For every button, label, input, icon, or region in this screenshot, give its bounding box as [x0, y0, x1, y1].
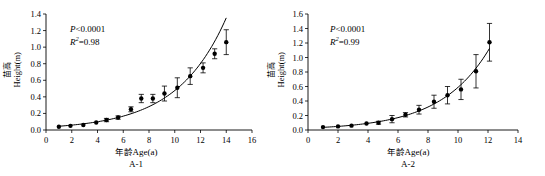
panel-a2-statistics: P<0.0001 R2=0.99	[330, 24, 365, 49]
svg-text:6: 6	[396, 135, 400, 145]
svg-text:12: 12	[196, 135, 205, 145]
panel-a1-caption: A-1	[0, 159, 272, 169]
svg-text:0.8: 0.8	[292, 67, 303, 77]
svg-text:1.0: 1.0	[30, 42, 41, 52]
svg-text:1.6: 1.6	[292, 9, 303, 19]
svg-text:14: 14	[222, 135, 231, 145]
panel-a2-pvalue: P<0.0001	[330, 24, 365, 35]
svg-text:10: 10	[171, 135, 180, 145]
svg-text:4: 4	[95, 135, 100, 145]
svg-text:0.0: 0.0	[292, 125, 303, 135]
panel-a1: 0.00.20.40.60.81.01.21.40246810121416 P<…	[0, 0, 272, 176]
svg-text:8: 8	[147, 135, 151, 145]
svg-text:0.4: 0.4	[292, 96, 303, 106]
panel-a2-rsquared: R2=0.99	[330, 35, 365, 48]
svg-text:10: 10	[454, 135, 463, 145]
svg-text:1.4: 1.4	[292, 24, 303, 34]
svg-text:1.2: 1.2	[292, 38, 303, 48]
panel-a1-rsquared: R2=0.98	[70, 35, 105, 48]
panel-a1-statistics: P<0.0001 R2=0.98	[70, 24, 105, 49]
svg-text:0: 0	[44, 135, 48, 145]
svg-text:16: 16	[248, 135, 257, 145]
svg-text:12: 12	[484, 135, 493, 145]
panel-a2-x-axis-label: 年龄Age(a)	[272, 145, 544, 157]
svg-text:2: 2	[70, 135, 74, 145]
svg-text:8: 8	[426, 135, 430, 145]
figure-container: 0.00.20.40.60.81.01.21.40246810121416 P<…	[0, 0, 545, 176]
svg-text:1.0: 1.0	[292, 53, 303, 63]
svg-text:0.8: 0.8	[30, 59, 41, 69]
svg-text:0.0: 0.0	[30, 125, 41, 135]
svg-text:0: 0	[306, 135, 310, 145]
svg-text:6: 6	[121, 135, 125, 145]
svg-text:2: 2	[336, 135, 340, 145]
svg-text:1.2: 1.2	[30, 26, 41, 36]
panel-a2-y-axis-label: 苗高 Height(m)	[267, 39, 286, 101]
svg-text:0.2: 0.2	[30, 108, 41, 118]
panel-a2-caption: A-2	[272, 159, 544, 169]
svg-text:0.6: 0.6	[30, 75, 41, 85]
panel-a1-x-axis-label: 年龄Age(a)	[0, 145, 272, 157]
panel-a2: 0.00.20.40.60.81.01.21.41.602468101214 P…	[272, 0, 544, 176]
svg-text:0.6: 0.6	[292, 82, 303, 92]
svg-text:0.4: 0.4	[30, 92, 41, 102]
panel-a1-y-axis-label: 苗高 Height(m)	[3, 39, 22, 101]
svg-text:1.4: 1.4	[30, 9, 41, 19]
svg-text:14: 14	[514, 135, 523, 145]
svg-text:0.2: 0.2	[292, 111, 303, 121]
svg-text:4: 4	[366, 135, 371, 145]
panel-a1-pvalue: P<0.0001	[70, 24, 105, 35]
